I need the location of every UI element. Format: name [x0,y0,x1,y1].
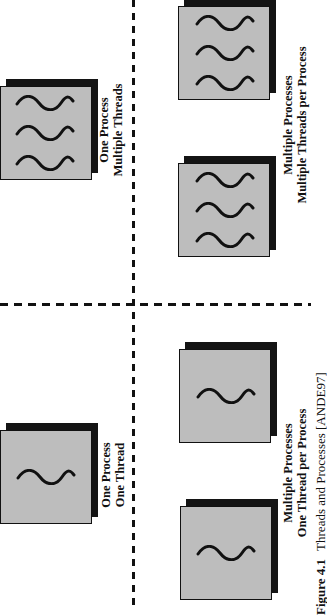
quadrant-label-one-process-multiple-threads: One Process Multiple Threads [97,80,125,180]
process-face [178,163,270,257]
process-box-icon [178,163,270,257]
process-box-icon [178,6,270,100]
thread-wave-icon [16,469,76,485]
thread-wave-icon [15,155,75,171]
thread-wave-icon [15,95,75,111]
thread-wave-icon [15,125,75,141]
label-line: Multiple Processes [281,45,295,205]
process-box-icon [0,430,92,524]
process-face [180,506,272,600]
process-face [179,349,271,443]
label-line: Multiple Threads [111,80,125,180]
process-face [0,430,92,524]
label-line: Multiple Threads per Process [295,45,309,205]
thread-wave-icon [195,75,255,91]
label-line: One Process [99,435,113,515]
quadrant-label-multiple-processes-one-thread: Multiple Processes One Thread per Proces… [281,393,309,553]
thread-wave-icon [195,172,255,188]
thread-wave-icon [196,545,256,561]
horizontal-dashed-divider [0,303,311,306]
process-face [0,86,92,180]
label-line: Multiple Processes [281,393,295,553]
thread-wave-icon [195,202,255,218]
figure-number: Figure 4.1 [313,559,327,615]
label-line: One Process [97,80,111,180]
thread-wave-icon [195,15,255,31]
thread-wave-icon [195,232,255,248]
quadrant-label-one-process-one-thread: One Process One Thread [99,435,127,515]
threads-processes-figure: One Process Multiple Threads One Process… [0,0,327,615]
label-line: One Thread per Process [295,393,309,553]
figure-caption-text: Threads and Processes [ANDE97] [313,372,327,551]
quadrant-label-multiple-processes-multiple-threads: Multiple Processes Multiple Threads per … [281,45,309,205]
thread-wave-icon [196,388,256,404]
process-box-icon [0,86,92,180]
label-line: One Thread [113,435,127,515]
process-box-icon [180,506,272,600]
process-face [178,6,270,100]
figure-caption: Figure 4.1Threads and Processes [ANDE97] [313,372,327,615]
thread-wave-icon [195,45,255,61]
process-box-icon [179,349,271,443]
